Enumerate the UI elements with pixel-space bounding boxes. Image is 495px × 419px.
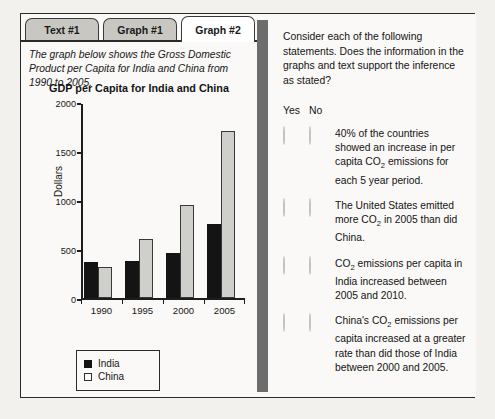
legend-item-china: China: [84, 371, 152, 382]
statement-text-4: China's CO2 emissions per capita increas…: [335, 314, 466, 375]
bar-india-2005: [207, 224, 221, 299]
radio-no-statement-1[interactable]: [309, 126, 311, 145]
x-tick-label: 2005: [214, 305, 235, 316]
radio-yes-statement-1[interactable]: [283, 126, 285, 145]
x-tick-label: 1990: [91, 305, 112, 316]
y-tick-mark: [77, 201, 81, 202]
statement-row: The United States emitted more CO2 in 20…: [283, 199, 466, 246]
bar-china-1990: [98, 267, 112, 298]
legend-swatch-india-icon: [84, 360, 92, 368]
radio-cell-yes: [283, 127, 309, 145]
y-tick-label: 0: [71, 295, 76, 305]
chart-title: GDP per Capita for India and China: [21, 82, 257, 94]
statement-text-1: 40% of the countries showed an increase …: [335, 127, 466, 188]
radio-yes-statement-2[interactable]: [283, 198, 285, 217]
tab-strip: Text #1 Graph #1 Graph #2: [21, 14, 257, 41]
x-tick-label: 2000: [173, 305, 194, 316]
tab-graph-1-label: Graph #1: [117, 24, 163, 36]
radio-cell-yes: [283, 314, 309, 332]
panel-divider-scrollbar[interactable]: [257, 20, 268, 392]
legend-label-china: China: [98, 371, 124, 382]
y-tick-label: 1000: [56, 197, 76, 207]
statement-text-2: The United States emitted more CO2 in 20…: [335, 199, 466, 246]
statement-row: 40% of the countries showed an increase …: [283, 127, 466, 188]
radio-no-statement-4[interactable]: [309, 313, 311, 332]
chart-legend: India China: [76, 350, 160, 391]
bar-china-1995: [139, 239, 153, 298]
radio-yes-statement-3[interactable]: [283, 256, 285, 275]
stimulus-panel: The graph below shows the Gross Domestic…: [21, 42, 257, 397]
gdp-bar-chart: Dollars 05001000150020001990199520002005: [29, 98, 253, 343]
x-tick-label: 1995: [132, 305, 153, 316]
y-tick-label: 1500: [56, 148, 76, 158]
question-panel: Consider each of the following statement…: [271, 14, 476, 397]
statement-row: China's CO2 emissions per capita increas…: [283, 314, 466, 375]
radio-cell-yes: [283, 199, 309, 217]
choice-column-headers: Yes No: [283, 105, 466, 116]
x-tick-mark: [81, 300, 82, 304]
y-tick-label: 500: [61, 246, 76, 256]
statement-list: 40% of the countries showed an increase …: [283, 127, 466, 375]
question-prompt: Consider each of the following statement…: [283, 30, 466, 88]
bar-china-2000: [180, 205, 194, 298]
legend-item-india: India: [84, 358, 152, 369]
bar-india-1990: [84, 262, 98, 299]
y-axis-line: [81, 104, 83, 300]
assessment-window: Text #1 Graph #1 Graph #2 The graph belo…: [20, 13, 475, 398]
statement-row: CO2 emissions per capita in India increa…: [283, 257, 466, 304]
y-tick-mark: [77, 250, 81, 251]
tab-text-1-label: Text #1: [44, 24, 79, 36]
x-tick-mark: [244, 300, 245, 304]
radio-cell-no: [309, 199, 335, 217]
x-tick-mark: [204, 300, 205, 304]
column-header-no: No: [309, 105, 335, 116]
column-header-yes: Yes: [283, 105, 309, 116]
bar-china-2005: [221, 131, 235, 299]
plot-area: 05001000150020001990199520002005: [81, 104, 245, 300]
statement-text-3: CO2 emissions per capita in India increa…: [335, 257, 466, 304]
x-tick-mark: [163, 300, 164, 304]
radio-cell-yes: [283, 257, 309, 275]
tab-graph-2-label: Graph #2: [195, 24, 241, 36]
y-tick-mark: [77, 103, 81, 104]
legend-label-india: India: [98, 358, 120, 369]
radio-no-statement-3[interactable]: [309, 256, 311, 275]
radio-yes-statement-4[interactable]: [283, 313, 285, 332]
tab-graph-2[interactable]: Graph #2: [181, 16, 255, 42]
tab-text-1[interactable]: Text #1: [25, 18, 99, 41]
legend-swatch-china-icon: [84, 373, 92, 381]
radio-no-statement-2[interactable]: [309, 198, 311, 217]
bar-india-1995: [125, 261, 139, 298]
radio-cell-no: [309, 127, 335, 145]
tab-graph-1[interactable]: Graph #1: [103, 18, 177, 41]
y-tick-label: 2000: [56, 99, 76, 109]
bar-india-2000: [166, 253, 180, 298]
radio-cell-no: [309, 257, 335, 275]
radio-cell-no: [309, 314, 335, 332]
x-tick-mark: [122, 300, 123, 304]
y-tick-mark: [77, 152, 81, 153]
